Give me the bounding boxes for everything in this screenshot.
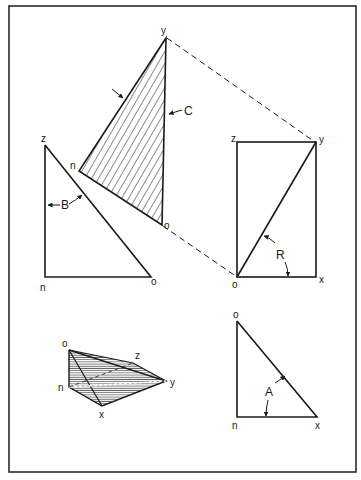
orthographic-projection-diagram: y n o C z n o B z y o x R o z (0, 0, 361, 480)
label-x: x (319, 274, 324, 285)
label-x: x (315, 420, 320, 431)
label-o: o (62, 338, 68, 349)
callout-r: R (276, 248, 285, 262)
lower-right-triangle: o n x A (232, 309, 320, 431)
label-n: n (40, 282, 46, 293)
projection-lines (163, 38, 315, 277)
label-o: o (151, 276, 157, 287)
label-y: y (161, 25, 166, 36)
label-z: z (41, 133, 46, 144)
callout-c: C (184, 104, 193, 118)
rectangle-view: z y o x R (231, 133, 324, 290)
label-y: y (170, 377, 175, 388)
label-z: z (231, 133, 236, 144)
label-n: n (70, 160, 76, 171)
label-x: x (99, 409, 104, 420)
label-o: o (232, 279, 238, 290)
label-z: z (135, 350, 140, 361)
label-n: n (58, 382, 64, 393)
callout-b: B (61, 198, 69, 212)
label-n: n (232, 420, 238, 431)
pictorial-solid: o z n y x (58, 338, 175, 420)
label-y: y (319, 134, 324, 145)
callout-a: A (265, 385, 273, 399)
label-o: o (233, 309, 239, 320)
